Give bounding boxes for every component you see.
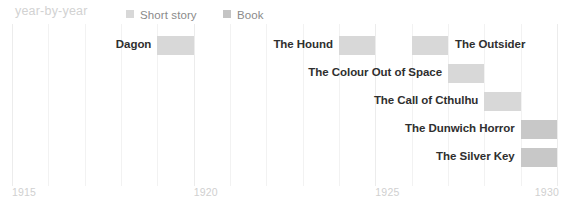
- timeline-bar[interactable]: [484, 92, 520, 111]
- bar-row: The Call of Cthulhu: [0, 88, 571, 116]
- legend-swatch-book: [223, 10, 231, 18]
- x-axis-tick-1925: 1925: [375, 186, 399, 198]
- timeline-bar[interactable]: [521, 120, 557, 139]
- timeline-plot-area: DagonThe HoundThe OutsiderThe Colour Out…: [0, 24, 571, 186]
- timeline-bar[interactable]: [157, 36, 193, 55]
- bar-row: The Silver Key: [0, 144, 571, 172]
- legend-item-short-story[interactable]: Short story: [126, 5, 197, 19]
- legend-label-book: Book: [237, 9, 264, 21]
- timeline-bar[interactable]: [412, 36, 448, 55]
- chart-header: year-by-year Short story Book: [0, 0, 571, 24]
- legend-item-book[interactable]: Book: [223, 5, 264, 19]
- timeline-bar-label: Dagon: [116, 38, 152, 50]
- x-axis-tick-1930: 1930: [535, 186, 559, 198]
- timeline-bar-label: The Outsider: [455, 38, 525, 50]
- timeline-bar-label: The Dunwich Horror: [405, 122, 515, 134]
- timeline-bar-label: The Silver Key: [436, 150, 515, 162]
- timeline-bar[interactable]: [448, 64, 484, 83]
- timeline-bar[interactable]: [339, 36, 375, 55]
- timeline-bar-label: The Call of Cthulhu: [374, 94, 478, 106]
- timeline-bar-label: The Colour Out of Space: [308, 66, 442, 78]
- legend-swatch-short-story: [126, 10, 134, 18]
- timeline-bar-label: The Hound: [273, 38, 333, 50]
- x-axis-tick-1920: 1920: [194, 186, 218, 198]
- page-title: year-by-year: [15, 4, 88, 18]
- x-axis: 1915192019251930: [0, 186, 571, 210]
- legend-label-short-story: Short story: [140, 9, 197, 21]
- x-axis-tick-1915: 1915: [12, 186, 36, 198]
- bar-row: The Dunwich Horror: [0, 116, 571, 144]
- bar-row: The Colour Out of Space: [0, 60, 571, 88]
- timeline-bar[interactable]: [521, 148, 557, 167]
- bar-row: DagonThe HoundThe Outsider: [0, 32, 571, 60]
